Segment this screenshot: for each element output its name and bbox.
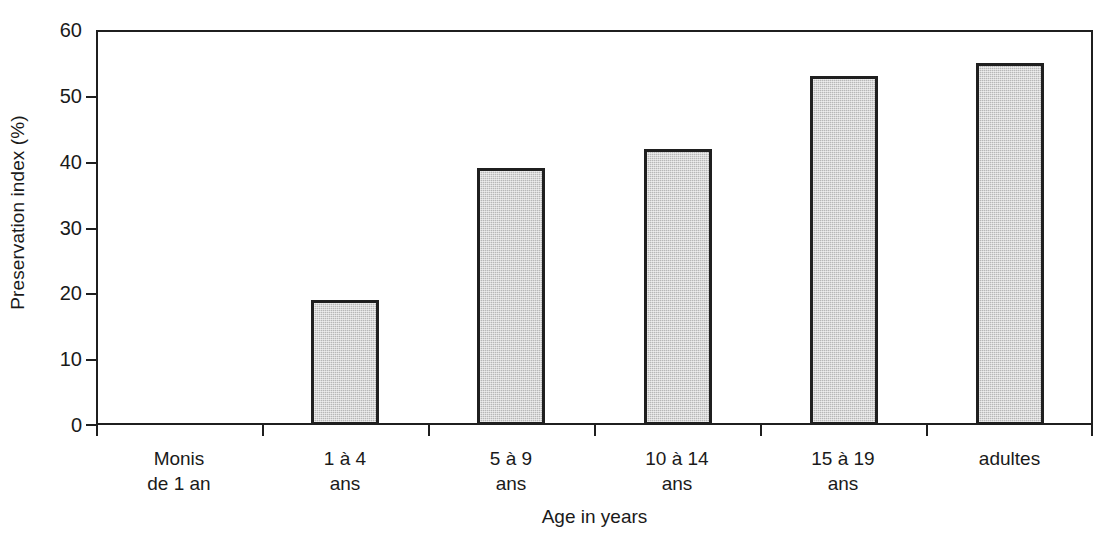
x-category-label-4-line1: 15 à 19 xyxy=(811,448,874,469)
y-tick-label-20: 20 xyxy=(36,283,82,303)
bar-10-a-14-ans xyxy=(644,149,712,426)
x-category-label-1-line2: ans xyxy=(262,471,428,496)
x-tick-mark-4 xyxy=(760,425,762,436)
y-tick-label-60: 60 xyxy=(36,20,82,40)
x-category-label-3-line2: ans xyxy=(594,471,760,496)
x-tick-mark-0 xyxy=(96,425,98,436)
x-category-label-0-line2: de 1 an xyxy=(96,471,262,496)
x-category-label-2-line2: ans xyxy=(428,471,594,496)
bar-5-a-9-ans xyxy=(477,168,545,425)
x-category-label-1: 1 à 4 ans xyxy=(262,446,428,496)
x-category-label-4-line2: ans xyxy=(760,471,926,496)
x-category-label-0: Monis de 1 an xyxy=(96,446,262,496)
x-category-label-0-line1: Monis xyxy=(154,448,205,469)
x-category-label-4: 15 à 19 ans xyxy=(760,446,926,496)
x-category-label-3-line1: 10 à 14 xyxy=(645,448,708,469)
bar-15-a-19-ans xyxy=(810,76,878,425)
x-category-label-5: adultes xyxy=(926,446,1093,471)
bar-1-a-4-ans xyxy=(311,300,379,425)
y-tick-label-10: 10 xyxy=(36,349,82,369)
x-category-label-5-line1: adultes xyxy=(979,448,1040,469)
x-tick-mark-3 xyxy=(594,425,596,436)
bar-adultes xyxy=(976,63,1044,425)
y-tick-label-40: 40 xyxy=(36,152,82,172)
bars-layer xyxy=(96,30,1093,425)
y-tick-label-50: 50 xyxy=(36,86,82,106)
x-category-label-2: 5 à 9 ans xyxy=(428,446,594,496)
x-tick-mark-6 xyxy=(1091,425,1093,436)
x-axis-title: Age in years xyxy=(96,506,1093,528)
x-tick-mark-2 xyxy=(428,425,430,436)
x-category-label-1-line1: 1 à 4 xyxy=(324,448,366,469)
x-category-label-3: 10 à 14 ans xyxy=(594,446,760,496)
x-category-label-2-line1: 5 à 9 xyxy=(490,448,532,469)
y-tick-label-0: 0 xyxy=(36,415,82,435)
x-tick-mark-1 xyxy=(262,425,264,436)
y-axis-title: Preservation index (%) xyxy=(0,0,36,425)
y-axis-tick-labels: 60 50 40 30 20 10 0 xyxy=(36,0,82,552)
bar-chart: Preservation index (%) 60 50 40 30 20 10… xyxy=(0,0,1108,552)
x-tick-mark-5 xyxy=(926,425,928,436)
x-axis-category-labels: Monis de 1 an 1 à 4 ans 5 à 9 ans 10 à 1… xyxy=(96,446,1093,506)
y-tick-label-30: 30 xyxy=(36,218,82,238)
